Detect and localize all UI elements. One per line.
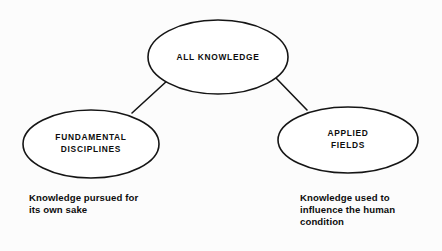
- caption-applied-line2: influence the human: [300, 204, 395, 215]
- knowledge-hierarchy-diagram: ALL KNOWLEDGE FUNDAMENTAL DISCIPLINES AP…: [0, 0, 442, 251]
- node-label-fundamental-line1: FUNDAMENTAL: [55, 132, 126, 142]
- node-label-applied-line2: FIELDS: [331, 140, 365, 150]
- caption-fundamental-line1: Knowledge pursued for: [29, 192, 138, 203]
- caption-applied-line1: Knowledge used to: [300, 192, 390, 203]
- node-label-fundamental-line2: DISCIPLINES: [61, 144, 121, 154]
- caption-applied-fields: Knowledge used to influence the human co…: [300, 192, 395, 227]
- diagram-canvas: ALL KNOWLEDGE FUNDAMENTAL DISCIPLINES AP…: [0, 0, 442, 251]
- caption-applied-line3: condition: [300, 216, 344, 227]
- caption-fundamental-disciplines: Knowledge pursued for its own sake: [29, 192, 138, 215]
- node-all-knowledge[interactable]: ALL KNOWLEDGE: [148, 20, 288, 94]
- node-label-all-knowledge: ALL KNOWLEDGE: [177, 52, 260, 62]
- connector-line-right: [275, 77, 307, 110]
- caption-fundamental-line2: its own sake: [29, 204, 87, 215]
- node-label-applied-line1: APPLIED: [327, 128, 368, 138]
- node-fundamental-disciplines[interactable]: FUNDAMENTAL DISCIPLINES: [23, 110, 159, 178]
- node-applied-fields[interactable]: APPLIED FIELDS: [278, 107, 418, 173]
- connector-line-left: [132, 80, 168, 113]
